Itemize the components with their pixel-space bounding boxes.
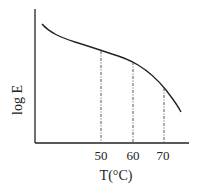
data-curve	[42, 24, 181, 112]
x-tick-50: 50	[95, 148, 108, 163]
x-axis-label: T(°C)	[100, 168, 133, 184]
chart: 50 60 70 T(°C) log E	[0, 0, 200, 188]
y-axis-label: log E	[10, 85, 25, 115]
x-tick-60: 60	[127, 148, 140, 163]
x-tick-70: 70	[157, 148, 170, 163]
